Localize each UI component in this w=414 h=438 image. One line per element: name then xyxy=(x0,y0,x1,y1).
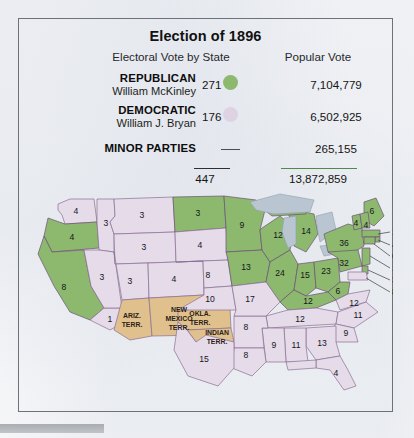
votes-washington: 4 xyxy=(74,206,79,216)
legend-row-minor-parties: MINOR PARTIES 265,155 xyxy=(18,140,393,166)
votes-michigan: 14 xyxy=(301,226,311,236)
votes-nevada: 3 xyxy=(100,272,105,282)
votes-north-dakota: 3 xyxy=(196,208,201,218)
state-new-jersey xyxy=(362,248,370,266)
popular-votes-minor: 265,155 xyxy=(274,142,398,155)
votes-massachusetts: 15 xyxy=(392,227,393,237)
votes-new-york: 36 xyxy=(339,238,349,248)
votes-alabama: 11 xyxy=(292,340,301,350)
candidate-name-mckinley: William McKinley xyxy=(66,85,196,98)
votes-virginia: 12 xyxy=(349,298,359,308)
totals-rule-electoral xyxy=(194,168,230,169)
votes-illinois: 24 xyxy=(275,268,285,278)
votes-new-hampshire: 4 xyxy=(364,220,369,230)
label-indian-territory-2: TERR. xyxy=(207,338,228,345)
votes-florida: 4 xyxy=(334,368,339,378)
legend-row-republican: REPUBLICAN William McKinley 271 7,104,77… xyxy=(18,72,393,98)
votes-montana: 3 xyxy=(140,210,145,220)
leader-line-new-jersey xyxy=(370,256,390,268)
label-arizona-territory: ARIZ. xyxy=(123,312,141,319)
party-label-minor: MINOR PARTIES xyxy=(66,142,196,155)
party-label-democratic: DEMOCRATIC xyxy=(66,104,196,117)
votes-vermont: 4 xyxy=(354,218,359,228)
votes-ohio: 23 xyxy=(321,266,331,276)
label-new-mexico-territory-3: TERR. xyxy=(169,324,190,331)
votes-georgia: 13 xyxy=(317,338,327,348)
column-header-electoral: Electoral Vote by State xyxy=(86,50,256,63)
votes-west-virginia: 6 xyxy=(336,286,341,296)
votes-utah: 3 xyxy=(128,276,133,286)
votes-pennsylvania: 32 xyxy=(339,258,349,268)
votes-kansas: 10 xyxy=(205,294,215,304)
state-massachusetts xyxy=(362,230,380,237)
votes-colorado: 4 xyxy=(172,274,177,284)
votes-minnesota: 9 xyxy=(240,220,245,230)
votes-new-jersey: 10 xyxy=(392,263,393,273)
party-name-republican: REPUBLICAN William McKinley xyxy=(66,72,196,97)
votes-nebraska: 8 xyxy=(206,270,211,280)
page-title: Election of 1896 xyxy=(18,28,393,44)
total-electoral-votes: 447 xyxy=(184,172,226,185)
state-maryland xyxy=(348,272,368,280)
votes-wyoming: 3 xyxy=(142,242,147,252)
page-footer-bar xyxy=(0,424,104,433)
votes-idaho: 3 xyxy=(104,218,109,228)
votes-south-carolina: 9 xyxy=(344,328,349,338)
votes-oregon: 4 xyxy=(70,232,75,242)
votes-arkansas: 8 xyxy=(244,322,249,332)
leader-line-connecticut xyxy=(374,244,390,256)
totals-rule-popular xyxy=(281,168,357,169)
label-oklahoma-territory-2: TERR. xyxy=(190,319,211,326)
votes-texas: 15 xyxy=(199,354,209,364)
label-new-mexico-territory: NEW xyxy=(171,306,188,313)
leader-line-delaware xyxy=(368,270,390,280)
state-florida-panhandle xyxy=(286,360,316,370)
minor-parties-dash-icon xyxy=(221,149,240,150)
votes-mississippi: 9 xyxy=(272,340,277,350)
votes-maryland: 8 xyxy=(392,287,393,297)
candidate-name-bryan: William J. Bryan xyxy=(66,117,196,130)
total-popular-votes: 13,872,859 xyxy=(256,172,380,185)
votes-california: 8 xyxy=(62,282,67,292)
votes-california-s: 1 xyxy=(108,314,113,324)
votes-maine: 6 xyxy=(370,206,375,216)
votes-kentucky: 12 xyxy=(303,296,313,306)
label-indian-territory: INDIAN xyxy=(205,329,229,336)
votes-missouri: 17 xyxy=(245,294,255,304)
label-arizona-territory-2: TERR. xyxy=(122,321,143,328)
votes-connecticut: 6 xyxy=(392,251,393,261)
state-louisiana xyxy=(232,348,266,376)
votes-south-dakota: 4 xyxy=(198,240,203,250)
votes-indiana: 15 xyxy=(300,270,310,280)
party-name-democratic: DEMOCRATIC William J. Bryan xyxy=(66,104,196,129)
state-connecticut xyxy=(364,237,375,244)
legend-row-democratic: DEMOCRATIC William J. Bryan 176 6,502,92… xyxy=(18,104,393,130)
lake-superior xyxy=(250,194,314,214)
party-name-minor: MINOR PARTIES xyxy=(66,142,196,155)
popular-votes-republican: 7,104,779 xyxy=(274,78,398,91)
votes-iowa: 13 xyxy=(241,262,251,272)
party-label-republican: REPUBLICAN xyxy=(66,72,196,85)
votes-louisiana: 8 xyxy=(244,350,249,360)
popular-votes-democratic: 6,502,925 xyxy=(274,110,398,123)
label-oklahoma-territory: OKLA. xyxy=(189,310,211,317)
votes-rhode-island: 4 xyxy=(392,240,393,250)
votes-delaware: 3 xyxy=(392,275,393,285)
electoral-map: .rep{fill:#8db96e;stroke:#6f4f77;stroke-… xyxy=(18,190,393,405)
democratic-swatch xyxy=(223,107,238,122)
leader-line-rhode-island xyxy=(378,240,390,245)
state-rhode-island xyxy=(375,237,380,242)
votes-north-carolina: 11 xyxy=(354,310,363,320)
votes-tennessee: 12 xyxy=(295,314,305,324)
republican-swatch xyxy=(223,75,238,90)
votes-wisconsin: 12 xyxy=(273,230,283,240)
column-header-popular: Popular Vote xyxy=(256,50,380,63)
